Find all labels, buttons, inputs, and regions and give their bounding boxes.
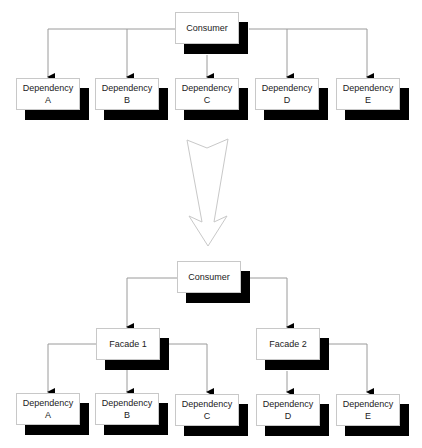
node-box: Dependency E [336, 394, 400, 426]
node-label: Dependency [262, 82, 313, 94]
after-dependency-c-node: Dependency C [175, 394, 239, 426]
facade-1-node: Facade 1 [96, 328, 160, 360]
node-box: Consumer [177, 261, 241, 293]
node-label: Dependency [263, 398, 314, 410]
node-sublabel: A [45, 409, 51, 421]
facade-pattern-diagram: Consumer Dependency A Dependency B Depen… [0, 0, 422, 448]
node-box: Dependency B [95, 78, 159, 110]
node-box: Dependency C [175, 78, 239, 110]
node-label: Dependency [343, 82, 394, 94]
facade-2-node: Facade 2 [256, 328, 320, 360]
node-sublabel: E [365, 94, 371, 106]
node-sublabel: B [124, 94, 130, 106]
node-sublabel: A [45, 94, 51, 106]
node-label: Dependency [102, 82, 153, 94]
node-box: Dependency D [256, 394, 320, 426]
before-dependency-b-node: Dependency B [95, 78, 159, 110]
node-label: Dependency [182, 82, 233, 94]
node-box: Dependency A [16, 78, 80, 110]
after-dependency-d-node: Dependency D [256, 394, 320, 426]
before-dependency-a-node: Dependency A [16, 78, 80, 110]
node-sublabel: B [124, 409, 130, 421]
before-consumer-node: Consumer [175, 12, 239, 44]
node-sublabel: E [365, 410, 371, 422]
after-dependency-e-node: Dependency E [336, 394, 400, 426]
node-sublabel: D [285, 410, 292, 422]
node-box: Dependency B [95, 393, 159, 425]
node-label: Facade 1 [109, 338, 147, 350]
node-box: Facade 2 [256, 328, 320, 360]
node-label: Consumer [188, 271, 230, 283]
node-label: Dependency [23, 82, 74, 94]
connector-lines [0, 0, 422, 448]
node-box: Dependency A [16, 393, 80, 425]
node-box: Dependency E [336, 78, 400, 110]
node-sublabel: D [284, 94, 291, 106]
transition-arrow-icon [187, 139, 228, 246]
node-sublabel: C [204, 410, 211, 422]
node-box: Dependency C [175, 394, 239, 426]
node-label: Facade 2 [269, 338, 307, 350]
after-dependency-a-node: Dependency A [16, 393, 80, 425]
node-box: Dependency D [255, 78, 319, 110]
node-label: Dependency [23, 397, 74, 409]
before-dependency-c-node: Dependency C [175, 78, 239, 110]
after-dependency-b-node: Dependency B [95, 393, 159, 425]
node-box: Consumer [175, 12, 239, 44]
node-label: Dependency [102, 397, 153, 409]
node-box: Facade 1 [96, 328, 160, 360]
node-sublabel: C [204, 94, 211, 106]
before-dependency-e-node: Dependency E [336, 78, 400, 110]
node-label: Dependency [182, 398, 233, 410]
after-consumer-node: Consumer [177, 261, 241, 293]
node-label: Consumer [186, 22, 228, 34]
before-dependency-d-node: Dependency D [255, 78, 319, 110]
node-label: Dependency [343, 398, 394, 410]
